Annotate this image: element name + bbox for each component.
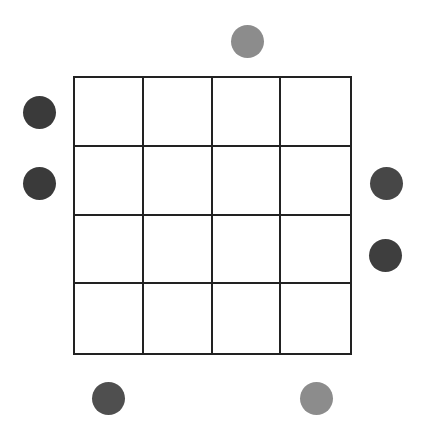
clue-dot-bottom-0: [92, 382, 125, 415]
clue-dot-right-2: [369, 239, 402, 272]
grid-cell-r1-c3[interactable]: [281, 147, 350, 216]
grid-cell-r1-c0[interactable]: [75, 147, 144, 216]
grid-cell-r3-c2[interactable]: [213, 284, 282, 353]
grid-cell-r1-c1[interactable]: [144, 147, 213, 216]
clue-dot-left-1: [23, 167, 56, 200]
puzzle-grid: [73, 76, 352, 355]
clue-dot-left-0: [23, 96, 56, 129]
puzzle-canvas: [0, 0, 422, 440]
grid-cell-r2-c1[interactable]: [144, 216, 213, 285]
grid-cell-r2-c2[interactable]: [213, 216, 282, 285]
grid-cell-r2-c3[interactable]: [281, 216, 350, 285]
grid-cell-r0-c3[interactable]: [281, 78, 350, 147]
clue-dot-top-2: [231, 25, 264, 58]
grid-cell-r3-c1[interactable]: [144, 284, 213, 353]
clue-dot-right-1: [370, 167, 403, 200]
grid-cell-r2-c0[interactable]: [75, 216, 144, 285]
grid-cell-r1-c2[interactable]: [213, 147, 282, 216]
grid-cell-r0-c0[interactable]: [75, 78, 144, 147]
grid-cell-r0-c2[interactable]: [213, 78, 282, 147]
grid-cell-r3-c0[interactable]: [75, 284, 144, 353]
clue-dot-bottom-3: [300, 382, 333, 415]
grid-cell-r3-c3[interactable]: [281, 284, 350, 353]
grid-cell-r0-c1[interactable]: [144, 78, 213, 147]
